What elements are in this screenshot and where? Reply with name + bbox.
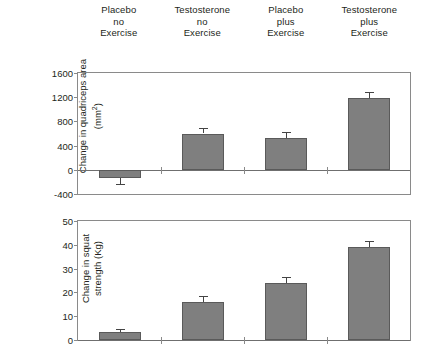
bar [265, 283, 307, 340]
group-separator-tick [327, 167, 328, 174]
group-header-3-line-3: Exercise [244, 27, 328, 39]
y-axis-tick-mark [74, 245, 78, 246]
group-header-4-line-2: plus [328, 16, 412, 28]
group-separator-tick [244, 337, 245, 344]
chart-panel-quadriceps-area: Change in quadriceps area (mm2) -4000400… [77, 72, 411, 195]
group-separator-tick [161, 337, 162, 344]
group-headers: Placebo no Exercise Testosterone no Exer… [77, 4, 411, 48]
bar [348, 98, 390, 170]
bar [265, 138, 307, 170]
group-header-4: Testosterone plus Exercise [328, 4, 412, 48]
error-bar-cap [365, 92, 374, 93]
group-header-2: Testosterone no Exercise [161, 4, 245, 48]
error-bar-cap [365, 241, 374, 242]
group-separator-tick [161, 167, 162, 174]
bar [182, 302, 224, 340]
group-header-1-line-3: Exercise [77, 27, 161, 39]
error-bar-cap [199, 296, 208, 297]
y-axis-tick-mark [74, 221, 78, 222]
group-header-3-line-1: Placebo [244, 4, 328, 16]
bar [348, 247, 390, 340]
bar [99, 332, 141, 340]
error-bar-cap [282, 132, 291, 133]
group-separator-tick [244, 167, 245, 174]
group-header-4-line-3: Exercise [328, 27, 412, 39]
bar [99, 170, 141, 178]
group-header-1-line-2: no [77, 16, 161, 28]
plot-area-squat: 01020304050 [78, 221, 410, 340]
y-axis-tick-mark [74, 194, 78, 195]
group-header-2-line-2: no [161, 16, 245, 28]
error-bar-cap [116, 329, 125, 330]
bar [182, 134, 224, 170]
error-bar-cap [282, 277, 291, 278]
y-axis-tick-mark [74, 269, 78, 270]
plot-area-quadriceps: -400040080012001600 [78, 73, 410, 194]
y-axis-tick-mark [74, 97, 78, 98]
group-header-4-line-1: Testosterone [328, 4, 412, 16]
group-header-1-line-1: Placebo [77, 4, 161, 16]
error-bar-cap [116, 184, 125, 185]
group-separator-tick [327, 337, 328, 344]
y-axis-tick-mark [74, 146, 78, 147]
group-header-3-line-2: plus [244, 16, 328, 28]
y-axis-tick-mark [74, 121, 78, 122]
group-header-2-line-1: Testosterone [161, 4, 245, 16]
y-axis-tick-mark [74, 316, 78, 317]
y-axis-tick-mark [74, 292, 78, 293]
chart-panel-squat-strength: Change in squat strength (Kg) 0102030405… [77, 220, 411, 341]
group-header-2-line-3: Exercise [161, 27, 245, 39]
error-bar-cap [199, 128, 208, 129]
y-axis-tick-mark [74, 73, 78, 74]
figure: Placebo no Exercise Testosterone no Exer… [0, 0, 429, 357]
group-header-3: Placebo plus Exercise [244, 4, 328, 48]
